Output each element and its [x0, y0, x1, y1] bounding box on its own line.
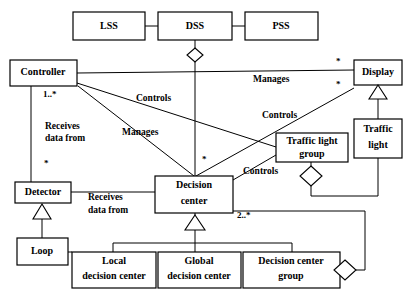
class-box-detector[interactable]: Detector [15, 182, 71, 203]
multiplicity-display-top: * [336, 56, 341, 66]
inheritance-triangle-detector [33, 204, 51, 219]
edge-label-receives-upper-line1: Receives [45, 121, 80, 131]
edge-label-receives-upper-line2: data from [45, 133, 85, 143]
class-label-global-decision-center-line1: Global [185, 255, 214, 266]
edge-label-receives-lower-line2: data from [88, 205, 128, 215]
edge-controller-display-manages [77, 70, 354, 73]
class-box-local-decision-center[interactable]: Local decision center [72, 252, 156, 288]
edge-label-controls-center: Controls [243, 166, 278, 176]
edge-label-manages-left: Manages [122, 127, 159, 137]
inheritance-triangle-display [369, 85, 387, 99]
class-label-global-decision-center-line2: decision center [167, 270, 231, 281]
class-label-traffic-light-line1: Traffic [363, 123, 393, 134]
class-label-decision-center-group-line2: group [278, 270, 304, 281]
multiplicity-display-bottom: * [336, 79, 341, 89]
class-label-detector: Detector [25, 186, 62, 197]
class-box-dss[interactable]: DSS [158, 12, 232, 40]
class-box-loop[interactable]: Loop [17, 238, 68, 265]
edge-display-decisioncenter-controls [196, 88, 354, 176]
class-label-controller: Controller [21, 66, 66, 77]
edge-label-controls-left: Controls [136, 93, 171, 103]
class-label-display: Display [362, 66, 394, 77]
class-label-decision-center-line2: center [181, 195, 208, 206]
class-label-traffic-light-group-line1: Traffic light [286, 135, 338, 146]
class-box-pss[interactable]: PSS [245, 12, 318, 40]
multiplicity-controller: 1..* [43, 89, 57, 99]
class-box-lss[interactable]: LSS [73, 12, 145, 40]
diagram-canvas: LSS DSS PSS Controller Display Tr [0, 0, 413, 295]
class-label-local-decision-center-line2: decision center [82, 270, 146, 281]
class-label-lss: LSS [100, 20, 118, 31]
class-box-traffic-light-group[interactable]: Traffic light group [276, 133, 348, 162]
edge-controller-tlgroup-controls [77, 83, 276, 147]
class-label-pss: PSS [272, 20, 290, 31]
class-label-loop: Loop [31, 245, 54, 256]
class-box-traffic-light[interactable]: Traffic light [354, 119, 402, 158]
class-label-decision-center-group-line1: Decision center [258, 255, 324, 266]
edge-label-controls-right: Controls [262, 110, 297, 120]
inheritance-triangle-decision-center [185, 215, 205, 230]
multiplicity-detector: * [44, 158, 49, 168]
class-box-decision-center-group[interactable]: Decision center group [243, 252, 340, 288]
class-box-controller[interactable]: Controller [10, 60, 77, 86]
aggregation-diamond-dss [187, 48, 203, 62]
class-label-traffic-light-line2: light [368, 139, 388, 150]
class-label-traffic-light-group-line2: group [299, 148, 325, 159]
class-box-display[interactable]: Display [354, 60, 402, 85]
edge-label-manages-right: Manages [253, 74, 290, 84]
aggregation-diamond-traffic-light-group [300, 166, 322, 186]
class-box-global-decision-center[interactable]: Global decision center [158, 252, 241, 288]
multiplicity-decision-center: * [202, 154, 207, 164]
class-label-local-decision-center-line1: Local [102, 255, 126, 266]
edge-label-receives-lower-line1: Receives [88, 192, 123, 202]
class-label-decision-center-line1: Decision [176, 179, 213, 190]
multiplicity-decision-center-2star: 2..* [237, 210, 251, 220]
class-label-dss: DSS [186, 20, 205, 31]
uml-class-diagram: LSS DSS PSS Controller Display Tr [0, 0, 413, 295]
class-box-decision-center[interactable]: Decision center [155, 176, 233, 213]
